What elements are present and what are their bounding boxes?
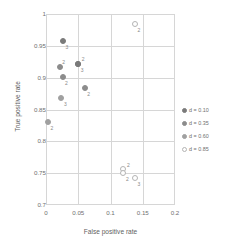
data-point-label: 3	[64, 102, 67, 107]
data-point-label: 2	[62, 60, 65, 65]
legend-label: d = 0.35	[189, 121, 209, 126]
data-point	[57, 64, 63, 70]
data-point-label: 3	[65, 44, 68, 49]
legend-marker-icon	[182, 147, 187, 152]
y-tick-label: 1	[43, 11, 46, 17]
legend-marker-icon	[182, 121, 187, 126]
x-axis-title: False positive rate	[46, 228, 175, 235]
legend-label: d = 0.85	[189, 147, 209, 152]
legend-item[interactable]: d = 0.35	[182, 117, 225, 130]
gridline-horizontal	[46, 173, 175, 174]
data-point-label: 2	[51, 126, 54, 131]
legend-item[interactable]: d = 0.60	[182, 130, 225, 143]
x-tick-label: 0.05	[66, 210, 90, 216]
y-tick-label: 0.85	[34, 107, 46, 113]
chart-legend: d = 0.10d = 0.35d = 0.60d = 0.85	[182, 104, 225, 156]
data-point-label: 3	[81, 67, 84, 72]
legend-label: d = 0.10	[189, 108, 209, 113]
data-point-label: 2	[82, 56, 85, 61]
scatter-chart-figure: True positive rate False positive rate 0…	[0, 0, 225, 249]
gridline-horizontal	[46, 141, 175, 142]
y-tick-label: 0.95	[34, 43, 46, 49]
y-tick-label: 0.7	[37, 202, 46, 208]
legend-marker-icon	[182, 134, 187, 139]
y-axis-title: True positive rate	[14, 52, 21, 162]
gridline-horizontal	[46, 110, 175, 111]
data-point-label: 2	[87, 92, 90, 97]
data-point-label: 2	[126, 177, 129, 182]
data-point-label: 2	[138, 27, 141, 32]
data-point-label: 2	[65, 81, 68, 86]
legend-label: d = 0.60	[189, 134, 209, 139]
y-tick-label: 0.9	[37, 75, 46, 81]
legend-marker-icon	[182, 108, 187, 113]
data-point-label: 2	[127, 162, 130, 167]
x-tick-label: 0.2	[163, 210, 187, 216]
x-tick-label: 0	[34, 210, 58, 216]
legend-item[interactable]: d = 0.10	[182, 104, 225, 117]
legend-item[interactable]: d = 0.85	[182, 143, 225, 156]
x-tick-label: 0.15	[131, 210, 155, 216]
y-tick-label: 0.8	[37, 138, 46, 144]
data-point-label: 3	[138, 181, 141, 186]
y-tick-label: 0.75	[34, 170, 46, 176]
x-tick-label: 0.1	[99, 210, 123, 216]
